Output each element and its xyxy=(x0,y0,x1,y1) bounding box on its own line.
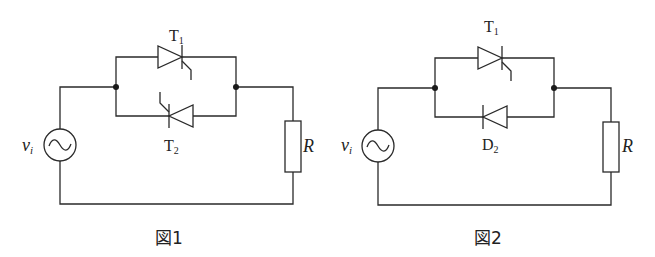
fig1-junction-left xyxy=(113,84,119,90)
fig1-label-r: R xyxy=(302,136,314,156)
fig1-label-vi: vi xyxy=(22,135,33,156)
fig1-branch-bottom xyxy=(116,87,236,116)
fig1-label-t2: T2 xyxy=(164,137,179,156)
fig2-label-vi: vi xyxy=(341,135,352,156)
fig1-resistor-icon xyxy=(285,121,301,172)
fig1-ac-source-icon xyxy=(44,129,76,161)
fig1-thyristor-t1-icon xyxy=(158,45,191,80)
fig2-resistor-icon xyxy=(603,122,619,172)
fig1-branch-top xyxy=(116,57,236,87)
fig2-branch-top xyxy=(435,58,554,88)
fig1-thyristor-t2-icon xyxy=(160,92,193,128)
fig1-caption: 図1 xyxy=(155,228,183,248)
fig2-wire-bottom xyxy=(378,162,611,205)
fig1-wire-right-top xyxy=(236,87,293,121)
fig2-junction-left xyxy=(432,85,438,91)
fig2-diode-d2-icon xyxy=(483,105,507,129)
fig1-label-t1: T1 xyxy=(169,27,184,46)
fig2-label-t1: T1 xyxy=(484,18,499,37)
fig2-thyristor-t1-icon xyxy=(478,46,511,81)
figure-1: T1 T2 vi R 図1 xyxy=(22,27,314,248)
fig1-wire-left-top xyxy=(60,87,116,129)
fig2-label-d2: D2 xyxy=(482,136,499,155)
fig1-junction-right xyxy=(233,84,239,90)
fig2-wire-left-top xyxy=(378,88,435,130)
fig1-wire-bottom xyxy=(60,161,293,204)
fig2-caption: 図2 xyxy=(474,228,502,248)
fig2-ac-source-icon xyxy=(362,130,394,162)
fig2-junction-right xyxy=(551,85,557,91)
fig2-wire-right-top xyxy=(554,88,611,122)
figure-2: T1 D2 vi R 図2 xyxy=(341,18,633,248)
fig2-label-r: R xyxy=(621,136,633,156)
